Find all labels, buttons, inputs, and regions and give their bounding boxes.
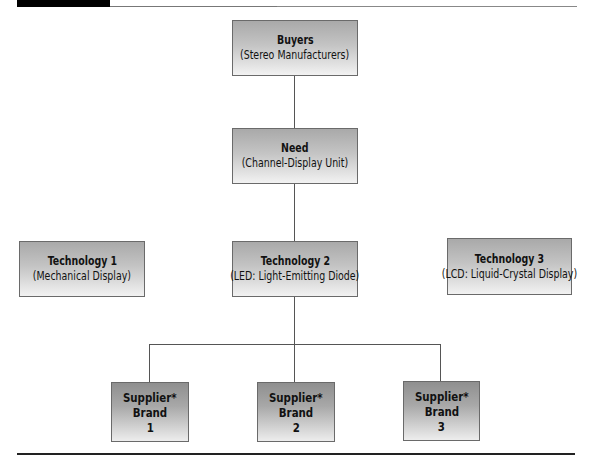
supplier-line-1: Supplier*: [415, 389, 469, 404]
node-subtitle: (LCD: Liquid-Crystal Display): [442, 267, 577, 282]
supplier-line-2: Brand: [279, 405, 313, 420]
connector-supplier-3: [440, 344, 441, 382]
node-subtitle: (Mechanical Display): [33, 269, 131, 284]
supplier-line-1: Supplier*: [123, 390, 177, 405]
node-subtitle: (LED: Light-Emitting Diode): [230, 269, 359, 284]
node-need: Need (Channel-Display Unit): [232, 128, 358, 184]
supplier-line-1: Supplier*: [269, 390, 323, 405]
node-supplier-1: Supplier* Brand 1: [111, 382, 189, 442]
header-rule: [110, 6, 277, 7]
node-buyers: Buyers (Stereo Manufacturers): [232, 20, 358, 76]
node-technology-2: Technology 2 (LED: Light-Emitting Diode): [232, 241, 358, 297]
connector-tech2-branch: [294, 297, 295, 344]
supplier-line-3: 3: [438, 419, 445, 434]
supplier-line-2: Brand: [424, 404, 458, 419]
node-title: Buyers: [277, 33, 314, 48]
connector-need-tech2: [294, 184, 295, 241]
supplier-line-3: 1: [146, 420, 153, 435]
header-rule-right: [277, 6, 577, 7]
node-subtitle: (Channel-Display Unit): [242, 156, 348, 171]
supplier-line-2: Brand: [133, 405, 167, 420]
supplier-line-3: 2: [292, 420, 299, 435]
bottom-rule: [17, 453, 575, 455]
connector-supplier-2: [294, 344, 295, 382]
header-bar: [17, 0, 110, 7]
node-supplier-3: Supplier* Brand 3: [403, 381, 480, 441]
node-technology-1: Technology 1 (Mechanical Display): [19, 241, 145, 297]
node-title: Need: [281, 141, 308, 156]
node-supplier-2: Supplier* Brand 2: [257, 382, 335, 442]
node-technology-3: Technology 3 (LCD: Liquid-Crystal Displa…: [447, 238, 572, 295]
node-title: Technology 2: [260, 254, 330, 269]
connector-supplier-1: [149, 344, 150, 382]
node-title: Technology 1: [47, 254, 117, 269]
node-subtitle: (Stereo Manufacturers): [240, 48, 349, 63]
node-title: Technology 3: [475, 252, 545, 267]
connector-buyers-need: [294, 75, 295, 128]
connector-branch-horizontal: [149, 344, 441, 345]
